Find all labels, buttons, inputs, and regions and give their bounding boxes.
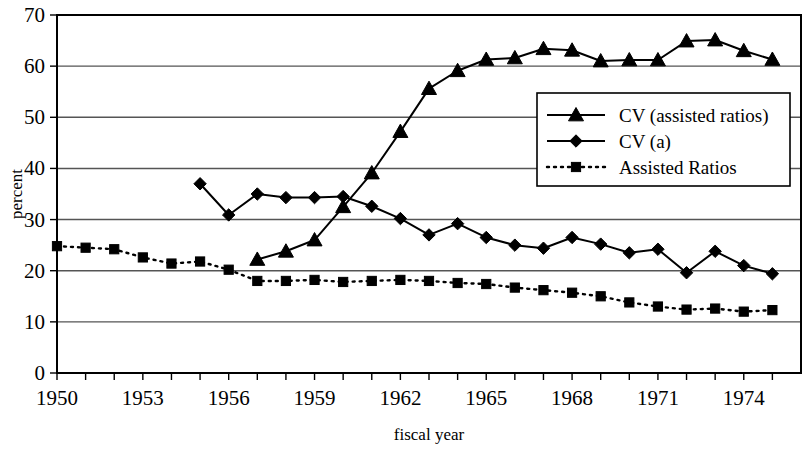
data-point-square (682, 305, 691, 314)
legend-label-1: CV (a) (619, 131, 671, 153)
data-point-triangle (736, 43, 751, 56)
chart-container: 010203040506070 195019531956195919621965… (0, 0, 812, 453)
data-point-diamond (623, 247, 635, 259)
data-point-square (110, 245, 119, 254)
data-point-square (52, 242, 61, 251)
x-tick-label-1968: 1968 (551, 386, 593, 410)
data-point-triangle (422, 81, 437, 94)
data-point-square (596, 292, 605, 301)
data-point-square (625, 298, 634, 307)
data-point-square (253, 276, 262, 285)
data-point-triangle (393, 124, 408, 137)
data-point-triangle (450, 63, 465, 76)
data-point-diamond (308, 191, 320, 203)
data-point-diamond (766, 268, 778, 280)
data-point-triangle (364, 166, 379, 179)
data-point-square (310, 275, 319, 284)
x-tick-label-1956: 1956 (208, 386, 250, 410)
x-tick-label-1965: 1965 (465, 386, 507, 410)
data-point-square (138, 253, 147, 262)
y-tick-label-0: 0 (35, 361, 46, 385)
legend-label-0: CV (assisted ratios) (619, 105, 769, 127)
data-point-diamond (738, 259, 750, 271)
y-tick-label-60: 60 (24, 54, 45, 78)
x-axis-title: fiscal year (394, 425, 465, 444)
legend-marker-square (571, 162, 580, 171)
data-point-square (567, 288, 576, 297)
data-point-square (224, 265, 233, 274)
y-tick-label-40: 40 (24, 156, 45, 180)
series-cv-a (194, 178, 779, 280)
data-point-diamond (594, 238, 606, 250)
data-point-square (367, 276, 376, 285)
y-axis-title: percent (7, 169, 26, 219)
data-point-diamond (509, 239, 521, 251)
data-point-triangle (708, 33, 723, 46)
data-point-diamond (366, 200, 378, 212)
line-chart: 010203040506070 195019531956195919621965… (0, 0, 812, 453)
data-point-square (339, 277, 348, 286)
data-point-square (510, 283, 519, 292)
data-point-triangle (536, 41, 551, 54)
x-axis-ticks (57, 373, 772, 380)
data-point-square (711, 304, 720, 313)
data-point-square (739, 307, 748, 316)
x-tick-label-1950: 1950 (36, 386, 78, 410)
x-axis-tick-labels: 195019531956195919621965196819711974 (36, 386, 765, 410)
y-axis-tick-labels: 010203040506070 (24, 3, 45, 385)
data-point-diamond (480, 231, 492, 243)
y-tick-label-50: 50 (24, 105, 45, 129)
x-tick-label-1962: 1962 (379, 386, 421, 410)
data-point-square (195, 257, 204, 266)
y-tick-label-30: 30 (24, 208, 45, 232)
data-point-diamond (394, 212, 406, 224)
x-tick-label-1959: 1959 (294, 386, 336, 410)
chart-legend: CV (assisted ratios)CV (a)Assisted Ratio… (537, 93, 790, 186)
data-point-triangle (278, 244, 293, 257)
data-point-square (281, 276, 290, 285)
data-point-square (81, 243, 90, 252)
plot-frame (57, 15, 801, 373)
data-point-diamond (280, 191, 292, 203)
data-point-square (768, 305, 777, 314)
series-assisted-ratios (52, 242, 777, 317)
x-tick-label-1971: 1971 (637, 386, 679, 410)
x-tick-label-1974: 1974 (723, 386, 766, 410)
x-tick-label-1953: 1953 (122, 386, 164, 410)
data-point-square (424, 276, 433, 285)
data-point-diamond (537, 242, 549, 254)
data-point-square (482, 279, 491, 288)
data-point-square (653, 302, 662, 311)
data-point-square (453, 278, 462, 287)
data-point-diamond (423, 229, 435, 241)
data-point-square (167, 259, 176, 268)
data-point-square (396, 275, 405, 284)
y-axis-ticks (50, 15, 57, 373)
y-tick-label-70: 70 (24, 3, 45, 27)
data-point-square (539, 286, 548, 295)
legend-label-2: Assisted Ratios (619, 157, 737, 178)
data-point-diamond (566, 231, 578, 243)
y-tick-label-20: 20 (24, 259, 45, 283)
y-tick-label-10: 10 (24, 310, 45, 334)
